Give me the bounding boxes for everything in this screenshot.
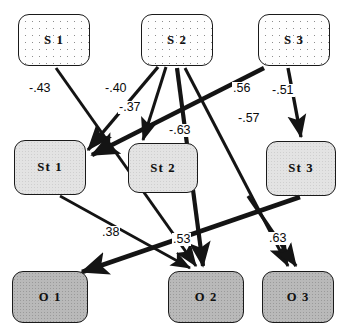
- node-s1[interactable]: S 1: [18, 14, 90, 66]
- edge-S3-St3: [288, 68, 301, 137]
- node-o1[interactable]: O 1: [12, 271, 88, 323]
- edge-label-s3-o3: .63: [268, 232, 287, 245]
- node-s2[interactable]: S 2: [141, 14, 213, 66]
- node-st3[interactable]: St 3: [266, 141, 336, 196]
- edge-label-s3-st3: -.51: [271, 84, 295, 97]
- node-s1-label: S 1: [44, 33, 64, 48]
- edge-label-s2-o3: -.57: [237, 112, 261, 125]
- node-st2[interactable]: St 2: [128, 143, 198, 193]
- node-o2[interactable]: O 2: [168, 271, 244, 323]
- node-s3-label: S 3: [284, 33, 304, 48]
- node-o3[interactable]: O 3: [262, 271, 334, 323]
- edge-label-s2-o2: -.63: [168, 124, 192, 137]
- node-s2-label: S 2: [167, 33, 187, 48]
- node-st1[interactable]: St 1: [14, 140, 86, 195]
- edge-label-s2-st2: -.37: [118, 101, 142, 114]
- edge-label-st3-o1: .53: [172, 233, 191, 246]
- node-o3-label: O 3: [287, 290, 310, 305]
- node-st2-label: St 2: [150, 161, 175, 176]
- edge-label-st1-o2: .38: [101, 226, 120, 239]
- edge-label-s2-st1: -.40: [104, 82, 128, 95]
- path-diagram: S 1 S 2 S 3 St 1 St 2 St 3 O 1 O 2 O 3 -…: [0, 0, 343, 333]
- edge-label-s3-st1: .56: [232, 82, 251, 95]
- node-st3-label: St 3: [288, 161, 313, 176]
- node-o1-label: O 1: [39, 290, 62, 305]
- node-o2-label: O 2: [195, 290, 218, 305]
- node-s3[interactable]: S 3: [258, 14, 330, 66]
- node-st1-label: St 1: [37, 160, 62, 175]
- edge-label-s1-o2: -.43: [28, 82, 52, 95]
